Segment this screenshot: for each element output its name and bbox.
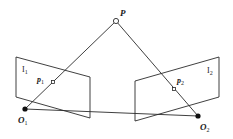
label-P-text: P <box>120 8 126 18</box>
ray-o2-p <box>116 21 198 116</box>
label-p2: p2 <box>177 77 184 86</box>
ray-o1-p <box>25 21 116 109</box>
label-I1-subscript: 1 <box>25 69 28 75</box>
camera-center-o1-marker <box>22 106 27 111</box>
point-P-marker <box>113 18 118 23</box>
label-O1: O1 <box>18 116 28 126</box>
point-p2-marker <box>173 88 176 91</box>
label-O1-subscript: 1 <box>25 120 28 126</box>
label-p2-subscript: 2 <box>181 80 184 86</box>
point-p1-marker <box>52 81 55 84</box>
camera-center-o2-marker <box>195 113 200 118</box>
label-p1: p1 <box>37 76 44 85</box>
label-I1: I1 <box>22 66 28 75</box>
label-p1-subscript: 1 <box>41 79 44 85</box>
label-I2: I2 <box>207 67 213 76</box>
label-P: P <box>120 9 126 18</box>
epipolar-diagram <box>0 0 233 139</box>
label-O2: O2 <box>200 123 210 133</box>
label-O2-subscript: 2 <box>207 127 210 133</box>
label-I2-subscript: 2 <box>210 70 213 76</box>
